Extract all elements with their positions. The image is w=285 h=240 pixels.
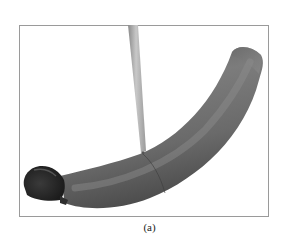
rod-contact-point xyxy=(142,152,145,155)
tube-open-end-left xyxy=(24,166,65,201)
figure-panel: (a) xyxy=(0,0,285,240)
figure-render xyxy=(0,0,285,240)
probe-rod xyxy=(128,25,146,153)
figure-caption: (a) xyxy=(0,221,285,233)
